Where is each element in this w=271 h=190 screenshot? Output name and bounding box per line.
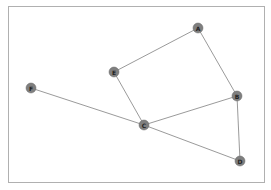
node-c: C: [139, 120, 149, 130]
node-e: E: [109, 67, 119, 77]
edge-b-d: [237, 96, 240, 161]
node-d: D: [235, 156, 245, 166]
node-f: F: [26, 83, 36, 93]
edges-layer: [31, 28, 240, 161]
node-label: C: [142, 122, 147, 129]
edge-a-e: [114, 28, 198, 72]
edge-a-b: [198, 28, 237, 96]
node-label: F: [29, 85, 33, 92]
node-label: A: [196, 25, 201, 32]
edge-c-b: [144, 96, 237, 125]
edge-f-c: [31, 88, 144, 125]
node-label: D: [238, 158, 243, 165]
node-b: B: [232, 91, 242, 101]
graph-canvas: ABCDEF: [0, 0, 271, 190]
edge-c-d: [144, 125, 240, 161]
node-label: B: [235, 93, 240, 100]
node-label: E: [112, 69, 116, 76]
nodes-layer: ABCDEF: [26, 23, 245, 166]
node-a: A: [193, 23, 203, 33]
